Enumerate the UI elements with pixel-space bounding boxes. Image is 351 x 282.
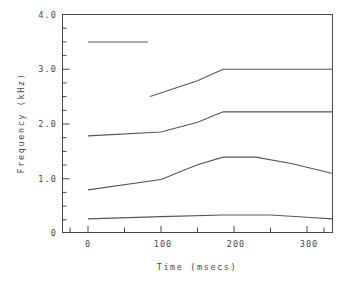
y-tick-label-1: 1.0 — [38, 174, 57, 184]
plot-frame — [63, 15, 333, 233]
x-tick-label-0: 0 — [85, 239, 91, 249]
y-major-ticks — [63, 15, 70, 233]
formant-trace-f1 — [88, 157, 333, 190]
y-tick-label-0: 0 — [51, 228, 57, 238]
formant-frequency-chart: 4.0 3.0 2.0 1.0 0 0 100 200 300 Time (ms… — [0, 0, 351, 282]
y-tick-label-2: 2.0 — [38, 119, 57, 129]
formant-trace-f3 — [150, 69, 332, 96]
x-minor-ticks — [70, 228, 324, 233]
y-axis-title: Frequency (kHz) — [16, 73, 26, 174]
formant-traces — [88, 42, 333, 219]
y-tick-label-3: 3.0 — [38, 64, 57, 74]
x-axis-title: Time (msecs) — [157, 262, 238, 272]
y-tick-label-4: 4.0 — [38, 10, 57, 20]
formant-trace-f0 — [88, 215, 333, 219]
x-tick-label-100: 100 — [154, 239, 173, 249]
chart-canvas: 4.0 3.0 2.0 1.0 0 0 100 200 300 Time (ms… — [0, 0, 351, 282]
x-tick-label-300: 300 — [300, 239, 319, 249]
x-tick-label-200: 200 — [227, 239, 246, 249]
formant-trace-f2 — [88, 112, 333, 136]
